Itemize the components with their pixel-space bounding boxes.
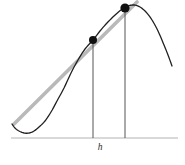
marked-points — [89, 3, 130, 44]
figure-canvas — [0, 0, 185, 165]
right-point-dot — [120, 3, 129, 12]
figure-container: h — [0, 0, 185, 165]
function-curve — [12, 5, 172, 133]
secant-line — [14, 2, 137, 124]
interval-label-h: h — [98, 143, 103, 153]
left-point-dot — [89, 36, 97, 44]
